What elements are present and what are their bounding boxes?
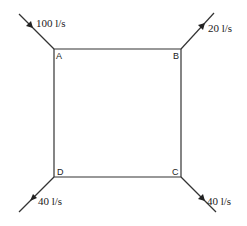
node-label-b: B [173,51,179,61]
node-label-c: C [172,167,179,177]
node-label-a: A [56,51,62,61]
flow-label-a: 100 l/s [36,17,66,29]
pipe-loop [54,49,181,177]
flow-label-d: 40 l/s [38,195,62,207]
flow-b: 20 l/s [181,13,232,49]
flow-label-c: 40 l/s [207,195,231,207]
flow-label-b: 20 l/s [208,22,232,34]
node-label-d: D [57,167,64,177]
flow-c: 40 l/s [181,177,231,212]
flow-a: 100 l/s [19,14,66,49]
pipe-network-diagram: 100 l/s 20 l/s 40 l/s 40 l/s A B C D [0,0,247,226]
flow-d: 40 l/s [19,177,62,212]
